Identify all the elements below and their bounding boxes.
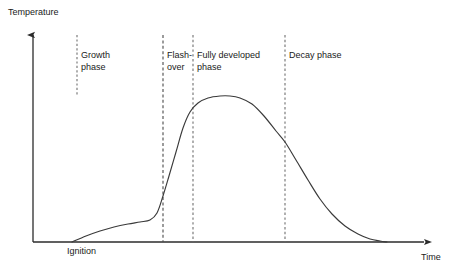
phase-label-growth-line2: phase [81,62,110,74]
phase-label-growth: Growth phase [81,50,110,73]
phase-label-decay-line1: Decay phase [289,50,342,62]
fire-development-diagram: Temperature Time Ignition Growth phase F… [0,0,462,270]
phase-label-flashover-line2: over [167,62,192,74]
phase-label-fully-line1: Fully developed [197,50,260,62]
temperature-curve [72,96,387,242]
phase-label-decay: Decay phase [289,50,342,62]
diagram-canvas [0,0,462,270]
ignition-label: Ignition [67,246,96,257]
y-axis-label: Temperature [8,7,59,18]
phase-label-fully-developed: Fully developed phase [197,50,260,73]
phase-label-flashover: Flash- over [167,50,192,73]
x-axis-label: Time [421,252,441,263]
phase-label-flashover-line1: Flash- [167,50,192,62]
phase-label-growth-line1: Growth [81,50,110,62]
phase-label-fully-line2: phase [197,62,260,74]
